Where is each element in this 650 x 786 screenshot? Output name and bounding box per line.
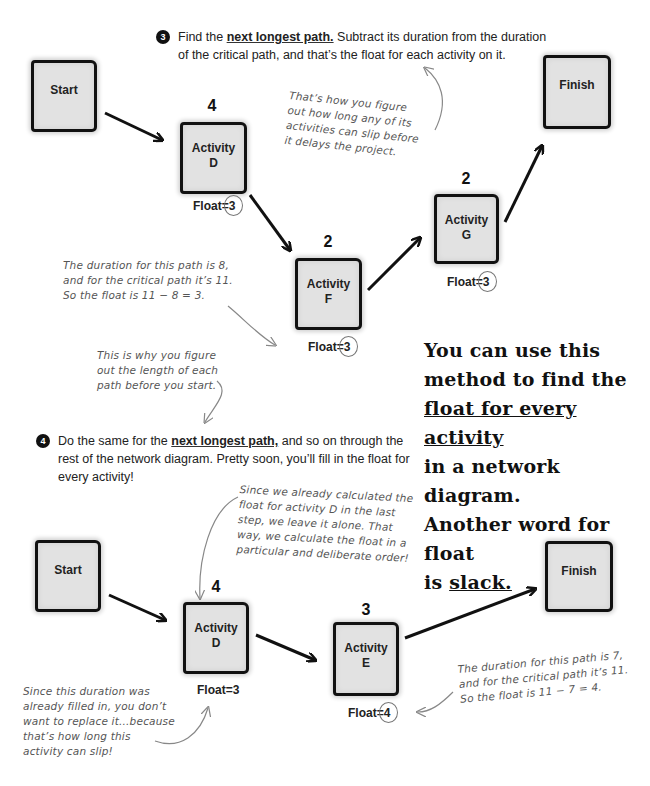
duration-activity-d-top: 4: [197, 97, 227, 115]
edge-start-to-d-top: [105, 113, 162, 140]
duration-activity-d-bottom: 4: [201, 578, 231, 596]
float-value-circled: 3: [229, 199, 236, 213]
node-activity-d-top: Activity D: [180, 122, 247, 194]
edge-g-to-finish-top: [505, 146, 542, 222]
step-4-number: 4: [36, 434, 50, 448]
node-activity-f-top: Activity F: [295, 258, 362, 330]
step-4-text: Do the same for the next longest path, a…: [58, 432, 458, 486]
node-activity-e-bottom: Activity E: [333, 622, 399, 696]
callout-slack-term: slack.: [449, 571, 512, 593]
edge-d-to-f-top: [250, 195, 290, 250]
annotation-already-calc-note: Since we already calculated the float fo…: [236, 482, 414, 566]
float-value-circled: 4: [384, 706, 391, 720]
node-activity-d-bottom: Activity D: [183, 602, 249, 674]
pointer-duration-note: [228, 306, 275, 345]
duration-activity-f-top: 2: [313, 233, 343, 251]
float-activity-g-top: Float=3: [447, 275, 489, 289]
float-activity-f-top: Float=3: [308, 340, 350, 354]
edge-start-to-d-bottom: [109, 595, 165, 620]
edge-f-to-g-top: [368, 238, 420, 290]
step-3-number: 3: [156, 30, 170, 44]
float-value-circled: 3: [483, 275, 490, 289]
pointer-slip-note: [425, 68, 442, 130]
float-activity-d-top: Float=3: [193, 199, 235, 213]
float-value-circled: 3: [344, 340, 351, 354]
node-finish-bottom: Finish: [545, 541, 613, 612]
node-finish-top: Finish: [543, 55, 611, 129]
float-activity-d-bottom: Float=3: [197, 683, 239, 697]
annotation-duration-note-top: The duration for this path is 8, and for…: [63, 258, 233, 303]
float-activity-e-bottom: Float=4: [348, 706, 390, 720]
edge-d-to-e-bottom: [256, 635, 315, 660]
annotation-filled-in-note: Since this duration was already filled i…: [23, 684, 175, 759]
annotation-why-note: This is why you figure out the length of…: [97, 348, 218, 393]
pointer-duration-note-bottom: [418, 692, 453, 712]
node-start-top: Start: [31, 60, 97, 132]
step-4-emphasis: next longest path,: [171, 434, 278, 448]
node-start-bottom: Start: [35, 540, 101, 612]
duration-activity-e-bottom: 3: [351, 601, 381, 619]
node-activity-g-top: Activity G: [434, 194, 499, 264]
duration-activity-g-top: 2: [451, 170, 481, 188]
step-3-emphasis: next longest path.: [227, 30, 334, 44]
